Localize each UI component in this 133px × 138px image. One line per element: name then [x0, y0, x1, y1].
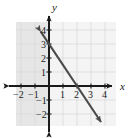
y-tick-label-2: 2: [41, 54, 46, 64]
x-tick-label-4: 4: [102, 90, 107, 100]
y-tick-label-neg2: −2: [36, 110, 47, 120]
x-tick-label-1: 1: [60, 90, 65, 100]
y-tick-label-4: 4: [41, 26, 46, 36]
plot-background: [16, 22, 116, 126]
x-tick-label-2: 2: [74, 90, 79, 100]
y-tick-label-neg1: −1: [36, 96, 47, 106]
coordinate-plane-figure: −2 −1 1 2 3 4 4 3 2 1 −1 −2 x y: [0, 0, 133, 138]
y-tick-label-3: 3: [41, 40, 46, 50]
graph-canvas: [0, 0, 133, 138]
x-tick-label-3: 3: [88, 90, 93, 100]
x-tick-label-neg2: −2: [13, 90, 24, 100]
y-tick-label-1: 1: [41, 68, 46, 78]
y-axis-label: y: [52, 2, 57, 13]
x-axis-label: x: [120, 81, 125, 92]
